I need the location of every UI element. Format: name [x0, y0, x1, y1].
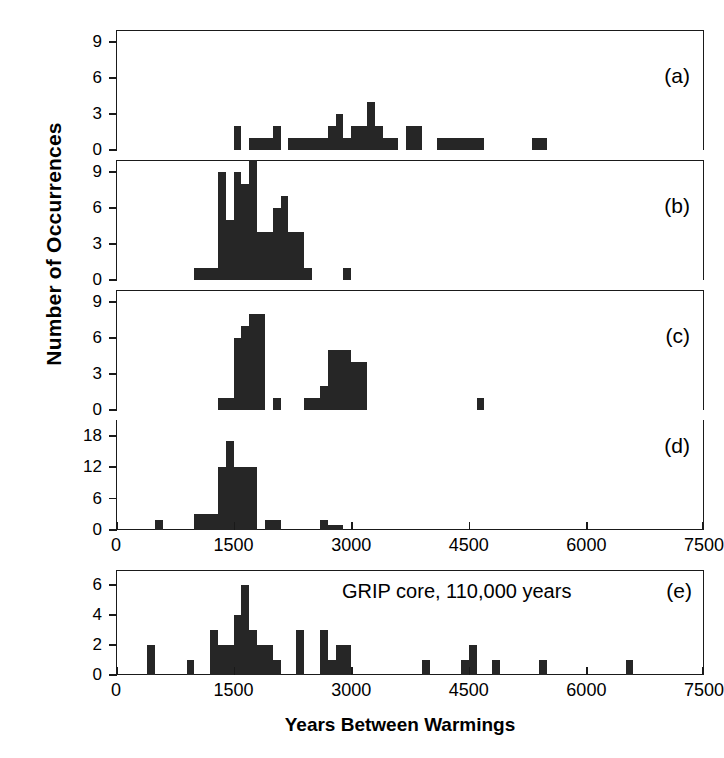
y-tick-label: 9 [54, 293, 102, 310]
y-tick-label: 3 [54, 105, 102, 122]
histogram-bar [273, 398, 281, 410]
x-tick-label: 4500 [429, 536, 509, 554]
y-tick-label: 6 [54, 329, 102, 346]
histogram-bar [249, 630, 257, 675]
x-tick [234, 667, 236, 675]
histogram-bar [296, 630, 304, 675]
y-tick-label: 12 [54, 458, 102, 475]
histogram-bar [320, 520, 328, 530]
y-tick-label: 6 [54, 490, 102, 507]
x-tick [234, 522, 236, 530]
y-tick [109, 279, 117, 281]
panel-c: (c) [116, 290, 704, 410]
histogram-bar [422, 660, 430, 675]
histogram-bar [437, 138, 445, 150]
y-tick-label: 0 [54, 271, 102, 288]
histogram-bar [155, 520, 163, 530]
histogram-bar [626, 660, 634, 675]
histogram-bar [234, 467, 242, 530]
y-tick-label: 2 [54, 636, 102, 653]
histogram-bar [281, 196, 289, 280]
histogram-bar [257, 138, 265, 150]
histogram-bar [218, 398, 226, 410]
histogram-bar [234, 338, 242, 410]
histogram-bar [202, 514, 210, 530]
histogram-bar [539, 138, 547, 150]
histogram-bar [312, 138, 320, 150]
y-tick-label: 0 [54, 401, 102, 418]
y-tick-label: 0 [54, 141, 102, 158]
histogram-bar [265, 138, 273, 150]
panel-d-label: (d) [664, 434, 690, 458]
y-tick [109, 498, 117, 500]
y-tick-label: 4 [54, 606, 102, 623]
panel-a: (a) [116, 30, 704, 150]
x-tick [351, 522, 353, 530]
y-tick [109, 207, 117, 209]
histogram-bar [249, 138, 257, 150]
histogram-bar [359, 362, 367, 410]
histogram-bar [249, 314, 257, 410]
histogram-bar [249, 160, 257, 280]
histogram-bar [336, 525, 344, 530]
histogram-bar [492, 660, 500, 675]
histogram-bar [375, 126, 383, 150]
x-tick-label: 6000 [546, 536, 626, 554]
histogram-bar [288, 232, 296, 280]
y-tick-label: 3 [54, 235, 102, 252]
x-tick-label: 7500 [664, 681, 724, 699]
y-tick-label: 3 [54, 365, 102, 382]
x-tick [469, 667, 471, 675]
histogram-bar [210, 630, 218, 675]
x-tick-label: 7500 [664, 536, 724, 554]
y-tick [109, 644, 117, 646]
y-tick [109, 171, 117, 173]
histogram-bar [273, 126, 281, 150]
x-tick-label: 1500 [194, 681, 274, 699]
histogram-bar [336, 350, 344, 410]
x-tick-label: 0 [76, 681, 156, 699]
histogram-bar [288, 138, 296, 150]
histogram-bar [406, 126, 414, 150]
histogram-bar [477, 398, 485, 410]
histogram-bar [226, 220, 234, 280]
panel-c-label: (c) [666, 324, 691, 348]
histogram-bar [414, 126, 422, 150]
y-tick-label: 6 [54, 199, 102, 216]
histogram-bar [445, 138, 453, 150]
x-tick-label: 1500 [194, 536, 274, 554]
y-tick [109, 301, 117, 303]
histogram-bar [351, 362, 359, 410]
histogram-bar [343, 350, 351, 410]
histogram-bar [453, 138, 461, 150]
histogram-bar [296, 138, 304, 150]
y-tick-label: 18 [54, 427, 102, 444]
histogram-bar [273, 208, 281, 280]
histogram-bar [461, 660, 469, 675]
histogram-bar [257, 232, 265, 280]
x-tick [586, 667, 588, 675]
figure-root: Number of Occurrences (a) 0369 (b) 0369 … [0, 0, 724, 758]
histogram-bar [320, 138, 328, 150]
y-tick [109, 373, 117, 375]
histogram-bar [532, 138, 540, 150]
y-tick [109, 584, 117, 586]
x-tick-label: 3000 [311, 681, 391, 699]
histogram-bar [226, 441, 234, 530]
histogram-bar [241, 467, 249, 530]
histogram-bar [218, 172, 226, 280]
histogram-bar [304, 268, 312, 280]
histogram-bar [383, 138, 391, 150]
histogram-bar [304, 138, 312, 150]
histogram-bar [241, 585, 249, 675]
panel-e-label: (e) [666, 579, 692, 603]
y-tick-label: 6 [54, 69, 102, 86]
histogram-bar [469, 138, 477, 150]
histogram-bar [234, 615, 242, 675]
histogram-bar [328, 126, 336, 150]
y-tick [109, 149, 117, 151]
y-tick-label: 9 [54, 33, 102, 50]
panel-a-plot-area [116, 30, 704, 150]
x-tick-label: 3000 [311, 536, 391, 554]
histogram-bar [226, 398, 234, 410]
